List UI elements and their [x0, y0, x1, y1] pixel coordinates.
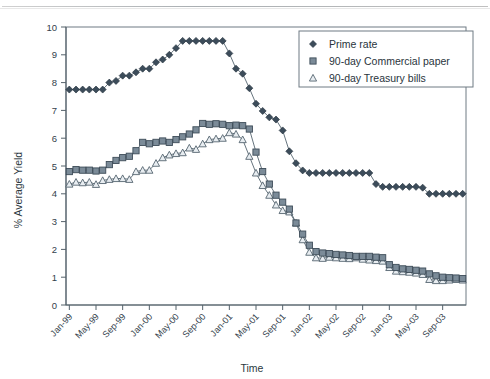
data-point-marker	[413, 267, 419, 273]
data-point-marker	[439, 190, 446, 197]
data-point-marker	[193, 127, 199, 133]
data-point-marker	[319, 169, 326, 176]
y-tick-label: 7	[52, 105, 57, 116]
x-axis-ticks: Jan-99May-99Sep-99Jan-00May-00Sep-00Jan-…	[48, 305, 447, 340]
data-point-marker	[399, 183, 406, 190]
data-point-marker	[226, 50, 233, 57]
legend-label: 90-day Treasury bills	[329, 72, 426, 84]
data-point-marker	[159, 154, 166, 161]
data-point-marker	[320, 250, 326, 256]
data-point-marker	[86, 179, 93, 186]
data-point-marker	[240, 123, 246, 129]
data-point-marker	[300, 231, 306, 237]
data-point-marker	[280, 199, 286, 205]
data-point-marker	[92, 181, 99, 188]
x-tick-label: May-03	[393, 312, 421, 341]
data-point-marker	[306, 242, 312, 248]
data-point-marker	[393, 183, 400, 190]
data-point-marker	[339, 169, 346, 176]
y-tick-label: 5	[52, 161, 57, 172]
legend-label: 90-day Commercial paper	[329, 55, 450, 67]
data-point-marker	[440, 274, 446, 280]
data-point-marker	[199, 140, 206, 147]
x-tick-label: Sep-02	[341, 312, 368, 340]
data-point-marker	[213, 121, 219, 127]
data-point-marker	[340, 252, 346, 258]
data-point-marker	[66, 86, 73, 93]
data-point-marker	[346, 252, 352, 258]
x-tick-label: Jan-99	[48, 312, 74, 339]
data-point-marker	[459, 190, 466, 197]
x-tick-label: Sep-03	[421, 312, 448, 340]
data-point-marker	[333, 169, 340, 176]
data-point-marker	[326, 169, 333, 176]
x-tick-label: May-02	[313, 312, 341, 341]
data-point-marker	[246, 153, 253, 160]
data-point-marker	[380, 255, 386, 261]
x-tick-label: Sep-99	[101, 312, 128, 340]
legend-marker-square	[310, 58, 316, 64]
data-point-marker	[146, 141, 152, 147]
data-point-marker	[359, 169, 366, 176]
data-point-marker	[86, 167, 92, 173]
data-point-marker	[252, 169, 259, 176]
data-point-marker	[160, 138, 166, 144]
y-axis-title: % Average Yield	[12, 152, 24, 228]
data-point-marker	[386, 183, 393, 190]
data-point-marker	[66, 168, 72, 174]
x-tick-label: Sep-01	[261, 312, 288, 340]
data-point-marker	[246, 85, 253, 92]
data-point-marker	[233, 65, 240, 72]
data-point-marker	[286, 148, 293, 155]
data-point-marker	[313, 169, 320, 176]
data-point-marker	[179, 149, 186, 156]
data-point-marker	[366, 253, 372, 259]
data-point-marker	[153, 139, 159, 145]
chart-canvas: 012345678910 Jan-99May-99Sep-99Jan-00May…	[0, 0, 490, 379]
data-point-marker	[93, 168, 99, 174]
data-point-marker	[366, 169, 373, 176]
data-point-marker	[453, 190, 460, 197]
data-point-marker	[293, 220, 299, 226]
data-point-marker	[199, 37, 206, 44]
y-tick-label: 10	[46, 22, 57, 33]
data-point-marker	[140, 139, 146, 145]
data-point-marker	[226, 123, 232, 129]
data-point-marker	[406, 266, 412, 272]
data-point-marker	[386, 262, 392, 268]
y-tick-label: 6	[52, 133, 57, 144]
x-tick-label: Sep-00	[181, 312, 208, 340]
data-point-marker	[259, 182, 266, 189]
data-point-marker	[306, 169, 313, 176]
data-point-marker	[273, 192, 279, 198]
data-point-marker	[406, 183, 413, 190]
y-axis-ticks: 012345678910	[46, 22, 66, 311]
data-point-marker	[206, 37, 213, 44]
data-point-marker	[173, 136, 179, 142]
data-point-marker	[139, 65, 146, 72]
data-point-marker	[186, 144, 193, 151]
data-point-marker	[226, 129, 233, 136]
data-point-marker	[72, 179, 79, 186]
data-point-marker	[273, 116, 280, 123]
x-tick-label: Jan-01	[208, 312, 234, 339]
data-point-marker	[86, 86, 93, 93]
data-point-marker	[159, 56, 166, 63]
x-tick-label: May-99	[73, 312, 101, 341]
data-point-marker	[346, 169, 353, 176]
y-tick-label: 0	[52, 300, 57, 311]
x-tick-label: Jan-03	[368, 312, 394, 339]
data-point-marker	[246, 126, 252, 132]
data-point-marker	[453, 275, 459, 281]
data-point-marker	[373, 254, 379, 260]
data-point-marker	[279, 127, 286, 134]
data-point-marker	[239, 70, 246, 77]
data-point-marker	[206, 121, 212, 127]
data-point-marker	[286, 206, 292, 212]
y-tick-label: 3	[52, 216, 57, 227]
data-point-marker	[186, 37, 193, 44]
data-point-marker	[133, 148, 139, 154]
y-tick-label: 9	[52, 49, 57, 60]
data-point-marker	[360, 253, 366, 259]
interest-rate-line-chart: 012345678910 Jan-99May-99Sep-99Jan-00May…	[0, 0, 490, 379]
